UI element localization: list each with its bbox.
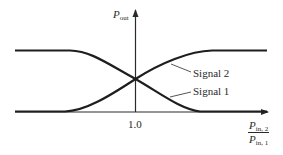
y-axis-label-main: P xyxy=(113,8,120,20)
signal-2-leader xyxy=(171,64,191,72)
x-den-main: P xyxy=(249,133,256,145)
x-axis-denominator: Pin, 1 xyxy=(248,133,269,145)
x-num-sub: in, 2 xyxy=(256,125,268,133)
x-axis-numerator: Pin, 2 xyxy=(248,120,269,133)
x-num-main: P xyxy=(249,119,256,131)
signal-1-leader xyxy=(170,92,191,97)
signal-1-label: Signal 1 xyxy=(193,86,229,97)
signal-1-curve xyxy=(15,51,267,112)
y-axis-label-sub: out xyxy=(120,14,129,22)
x-tick-label: 1.0 xyxy=(128,119,142,130)
chart-canvas xyxy=(0,0,283,155)
x-den-sub: in, 1 xyxy=(256,139,268,147)
y-axis-label: Pout xyxy=(113,9,129,20)
signal-2-label: Signal 2 xyxy=(193,68,229,79)
x-axis-label: Pin, 2 Pin, 1 xyxy=(248,120,269,145)
